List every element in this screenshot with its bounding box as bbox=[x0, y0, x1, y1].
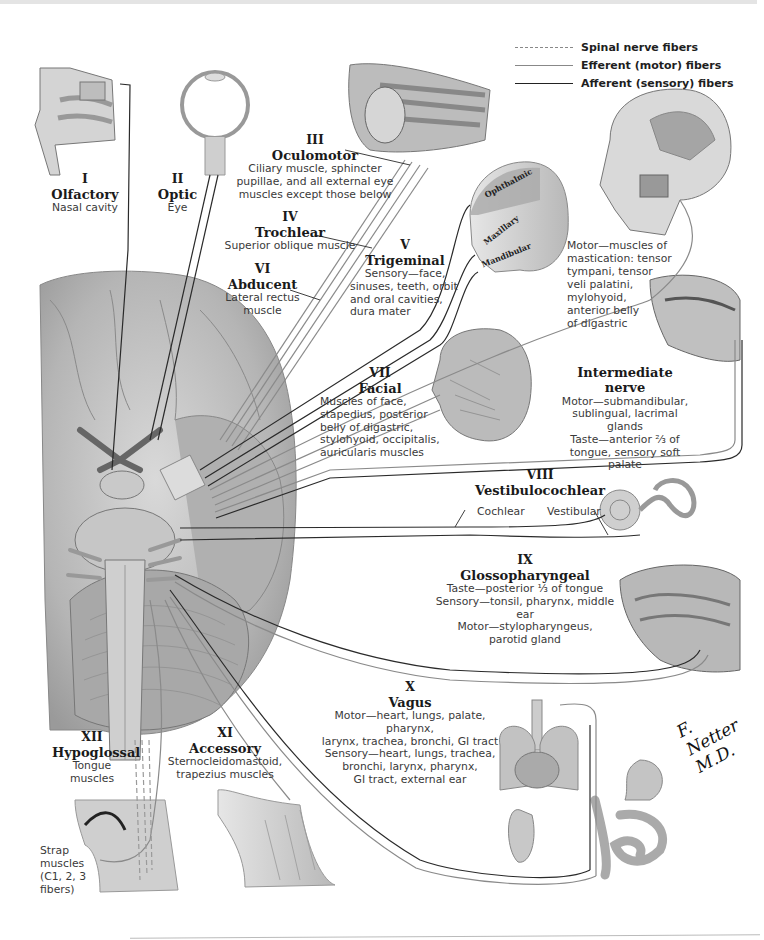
nerve-desc: Taste—posterior ¹⁄₃ of tongue bbox=[430, 583, 620, 596]
nerve-name: Trigeminal bbox=[350, 253, 460, 268]
nerve-desc: anterior belly bbox=[567, 305, 677, 318]
label-trigeminal-motor: Motor—muscles of mastication: tensor tym… bbox=[567, 240, 677, 331]
nerve-desc: sublingual, lacrimal glands bbox=[555, 408, 695, 433]
nerve-desc: trapezius muscles bbox=[165, 769, 285, 782]
nerve-number: VI bbox=[220, 262, 305, 277]
strap-line: (C1, 2, 3 bbox=[40, 871, 86, 884]
nerve-number: V bbox=[350, 238, 460, 253]
nerve-desc: tympani, tensor bbox=[567, 266, 677, 279]
nerve-desc: mastication: tensor bbox=[567, 253, 677, 266]
nerve-name: Intermediate nerve bbox=[555, 365, 695, 396]
nerve-name: Vestibulocochlear bbox=[465, 483, 615, 498]
nerve-desc: Ciliary muscle, sphincter bbox=[230, 163, 400, 176]
legend-item-efferent: Efferent (motor) fibers bbox=[515, 56, 734, 74]
nerve-desc: Eye bbox=[150, 202, 205, 215]
nerve-name: Hypoglossal bbox=[52, 745, 132, 760]
afferent-line-swatch-icon bbox=[515, 83, 573, 84]
nerve-desc: bronchi, larynx, pharynx, bbox=[315, 761, 505, 774]
label-strap-muscles: Strap muscles (C1, 2, 3 fibers) bbox=[40, 845, 86, 897]
nerve-desc: stapedius, posterior bbox=[320, 409, 440, 422]
nerve-desc: muscles except those below bbox=[230, 189, 400, 202]
nerve-desc: GI tract, external ear bbox=[315, 774, 505, 787]
nerve-desc: of digastric bbox=[567, 318, 677, 331]
nerve-desc: muscles bbox=[52, 773, 132, 786]
pharynx-illustration bbox=[620, 565, 740, 672]
label-abducent: VI Abducent Lateral rectus muscle bbox=[220, 262, 305, 318]
strap-line: muscles bbox=[40, 858, 86, 871]
nerve-desc: Motor—muscles of bbox=[567, 240, 677, 253]
nerve-desc: Superior oblique muscle bbox=[220, 240, 360, 253]
facial-muscles-head-illustration bbox=[432, 329, 531, 441]
nerve-number: VII bbox=[320, 366, 440, 381]
legend-label: Spinal nerve fibers bbox=[581, 41, 698, 54]
label-vestibulocochlear: VIII Vestibulocochlear bbox=[465, 468, 615, 498]
nerve-name: Oculomotor bbox=[230, 148, 400, 163]
label-trochlear: IV Trochlear Superior oblique muscle bbox=[220, 210, 360, 253]
nerve-number: XI bbox=[165, 726, 285, 741]
nerve-name: Facial bbox=[320, 381, 440, 396]
nerve-number: IV bbox=[220, 210, 360, 225]
nerve-desc: Muscles of face, bbox=[320, 396, 440, 409]
nerve-desc: Taste—anterior ²⁄₃ of bbox=[555, 434, 695, 447]
nerve-desc: Motor—heart, lungs, palate, pharynx, bbox=[315, 710, 505, 735]
tongue-neck-illustration bbox=[75, 800, 178, 892]
nerve-desc: Sensory—tonsil, pharynx, middle ear bbox=[430, 596, 620, 621]
label-cochlear-branch: Cochlear bbox=[477, 506, 525, 519]
legend-label: Efferent (motor) fibers bbox=[581, 59, 721, 72]
nerve-desc: Sensory—face, bbox=[350, 268, 460, 281]
dashed-line-swatch-icon bbox=[515, 47, 573, 48]
nerve-name: Olfactory bbox=[40, 187, 130, 202]
nerve-name: Vagus bbox=[315, 695, 505, 710]
efferent-line-swatch-icon bbox=[515, 65, 573, 66]
nerve-name: Glossopharyngeal bbox=[430, 568, 620, 583]
thoracic-organs-illustration bbox=[500, 700, 579, 790]
nerve-number: X bbox=[315, 680, 505, 695]
nerve-desc: pupillae, and all external eye bbox=[230, 176, 400, 189]
nerve-name: Trochlear bbox=[220, 225, 360, 240]
strap-line: fibers) bbox=[40, 884, 86, 897]
gi-tract-illustration bbox=[595, 760, 663, 875]
label-hypoglossal: XII Hypoglossal Tongue muscles bbox=[52, 730, 132, 786]
nerve-name: Accessory bbox=[165, 741, 285, 756]
nerve-desc: sinuses, teeth, orbit bbox=[350, 281, 460, 294]
nerve-desc: Sternocleidomastoid, bbox=[165, 756, 285, 769]
label-glossopharyngeal: IX Glossopharyngeal Taste—posterior ¹⁄₃ … bbox=[430, 553, 620, 647]
label-vestibular-branch: Vestibular bbox=[547, 506, 601, 519]
legend-item-spinal: Spinal nerve fibers bbox=[515, 38, 734, 56]
nerve-number: IX bbox=[430, 553, 620, 568]
nerve-desc: auricularis muscles bbox=[320, 447, 440, 460]
label-oculomotor: III Oculomotor Ciliary muscle, sphincter… bbox=[230, 133, 400, 201]
neck-illustration bbox=[218, 790, 335, 887]
label-vagus: X Vagus Motor—heart, lungs, palate, phar… bbox=[315, 680, 505, 786]
nerve-name: Abducent bbox=[220, 277, 305, 292]
nasal-cavity-illustration bbox=[35, 68, 115, 175]
brain-inferior-view bbox=[40, 271, 296, 760]
external-ear-illustration bbox=[508, 810, 534, 863]
legend-item-afferent: Afferent (sensory) fibers bbox=[515, 74, 734, 92]
nerve-number: XII bbox=[52, 730, 132, 745]
label-facial: VII Facial Muscles of face, stapedius, p… bbox=[320, 366, 440, 460]
label-olfactory: I Olfactory Nasal cavity bbox=[40, 172, 130, 215]
label-trigeminal: V Trigeminal Sensory—face, sinuses, teet… bbox=[350, 238, 460, 319]
nerve-number: I bbox=[40, 172, 130, 187]
nerve-desc: muscle bbox=[220, 305, 305, 318]
nerve-desc: dura mater bbox=[350, 306, 460, 319]
nerve-desc: Tongue bbox=[52, 760, 132, 773]
nerve-number: VIII bbox=[465, 468, 615, 483]
strap-line: Strap bbox=[40, 845, 86, 858]
nerve-name: Optic bbox=[150, 187, 205, 202]
skull-illustration bbox=[600, 89, 731, 235]
legend: Spinal nerve fibers Efferent (motor) fib… bbox=[515, 38, 734, 92]
label-accessory: XI Accessory Sternocleidomastoid, trapez… bbox=[165, 726, 285, 782]
nerve-desc: mylohyoid, bbox=[567, 292, 677, 305]
nerve-desc: Nasal cavity bbox=[40, 202, 130, 215]
nerve-number: II bbox=[150, 172, 205, 187]
label-optic: II Optic Eye bbox=[150, 172, 205, 215]
legend-label: Afferent (sensory) fibers bbox=[581, 77, 734, 90]
nerve-desc: veli palatini, bbox=[567, 279, 677, 292]
label-intermediate-nerve: Intermediate nerve Motor—submandibular, … bbox=[555, 365, 695, 472]
nerve-desc: parotid gland bbox=[430, 634, 620, 647]
nerve-desc: Lateral rectus bbox=[220, 292, 305, 305]
nerve-number: III bbox=[230, 133, 400, 148]
